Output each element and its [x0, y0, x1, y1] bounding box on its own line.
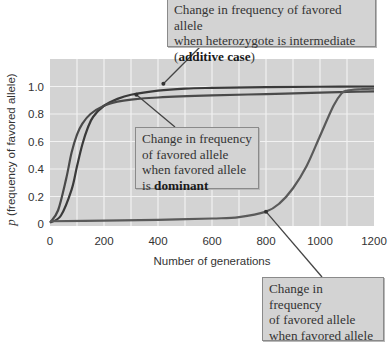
y-tick-label: 0.4 [28, 163, 45, 175]
x-tick-label: 200 [94, 235, 113, 247]
callout-dominant: Change in frequency of favored allele wh… [135, 127, 259, 189]
y-tick-label: 0 [38, 218, 44, 230]
callout-additive-line1: Change in frequency of favored allele [174, 2, 369, 33]
x-tick-label: 0 [47, 235, 53, 247]
y-tick-label: 0.8 [28, 108, 44, 120]
y-tick-label: 0.6 [28, 136, 44, 148]
x-axis-label: Number of generations [154, 255, 271, 267]
callout-additive-line2: when heterozygote is intermediate [174, 33, 369, 49]
callout-dominant-bold: dominant [154, 178, 208, 193]
y-axis-label: p (frequency of favored allele) [3, 73, 18, 226]
callout-pointer-dot [134, 93, 138, 97]
x-tick-label: 400 [148, 235, 167, 247]
callout-additive: Change in frequency of favored allele wh… [167, 0, 376, 47]
y-tick-label: 0.2 [28, 191, 44, 203]
x-tick-label: 800 [256, 235, 275, 247]
callout-recessive: Change in frequency of favored allele wh… [262, 277, 384, 341]
x-tick-label: 600 [202, 235, 221, 247]
callout-additive-bold: additive case [178, 49, 250, 64]
callout-pointer-dot [161, 82, 165, 86]
x-tick-label: 1200 [361, 235, 387, 247]
y-tick-label: 1.0 [28, 81, 44, 93]
x-tick-label: 1000 [307, 235, 333, 247]
callout-pointer-dot [264, 210, 268, 214]
